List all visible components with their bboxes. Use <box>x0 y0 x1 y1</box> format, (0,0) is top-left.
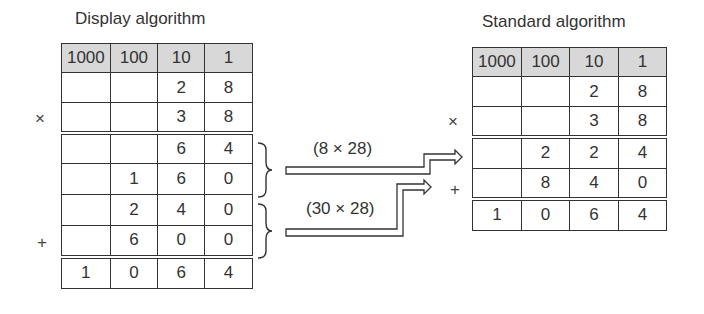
upper-arrow-icon <box>286 150 462 174</box>
arrows-and-braces <box>0 0 704 314</box>
upper-brace-icon <box>258 143 272 197</box>
lower-brace-icon <box>258 204 272 258</box>
lower-arrow-icon <box>286 180 431 236</box>
